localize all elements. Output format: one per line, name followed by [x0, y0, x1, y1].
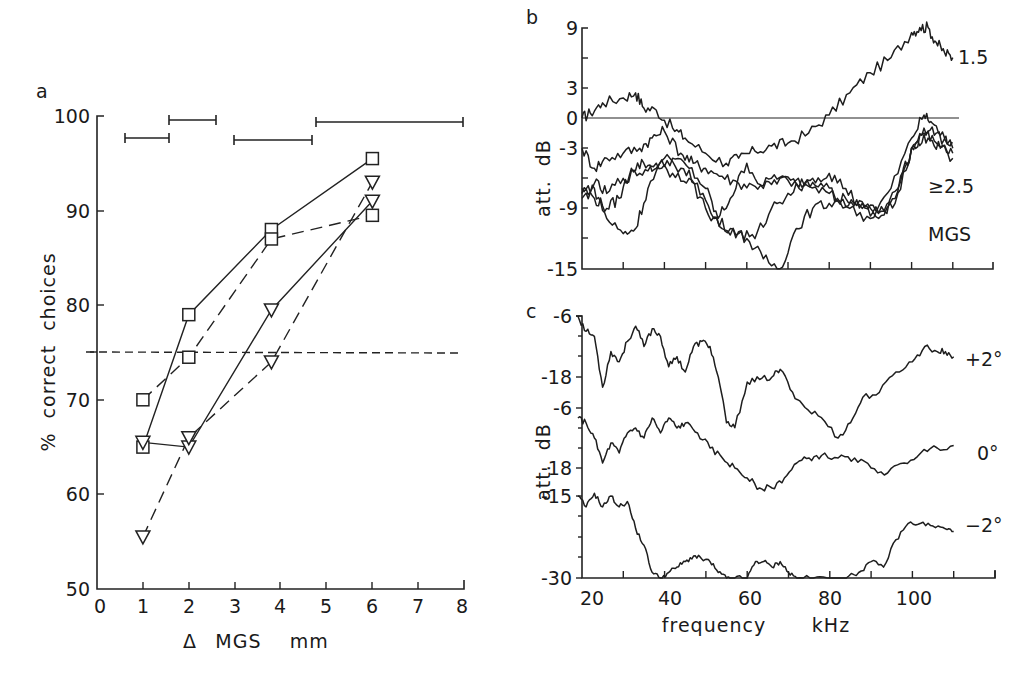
c-ytick-bot-m30: -30: [541, 567, 572, 589]
xtick-6: 6: [366, 595, 378, 617]
square-marker: [183, 309, 195, 321]
spectrum-trace-1: [582, 114, 953, 222]
range-bars: [125, 115, 463, 145]
square-marker: [183, 351, 195, 363]
b-ytick-m9: -9: [559, 197, 578, 219]
series-line-3: [143, 182, 373, 537]
b-ytick-m3: -3: [559, 137, 578, 159]
xtick-1: 1: [137, 595, 149, 617]
square-marker: [366, 209, 378, 221]
series-line-0: [143, 159, 373, 448]
xtick-8: 8: [456, 595, 468, 617]
threshold-75-line: [86, 352, 460, 353]
xtick-5: 5: [320, 595, 332, 617]
b-ytick-9: 9: [566, 17, 578, 39]
label-ge-2-5: ≥2.5: [928, 175, 974, 197]
c-xtick-40: 40: [658, 587, 682, 609]
b-ytick-m15: -15: [547, 258, 578, 280]
label-0deg: 0°: [977, 442, 999, 464]
xtick-3: 3: [229, 595, 241, 617]
c-xtick-80: 80: [818, 587, 842, 609]
panel-a-xticks: 0 1 2 3 4 5 6 7 8: [94, 582, 468, 617]
panel-a-series: [136, 153, 380, 544]
triangle-marker: [264, 304, 278, 317]
label-mgs: MGS: [928, 223, 971, 245]
panel-c-xlabel-unit: kHz: [812, 614, 850, 636]
b-ytick-3: 3: [566, 77, 578, 99]
c-xtick-100: 100: [896, 587, 932, 609]
panel-b-series: [582, 22, 953, 269]
panel-c: c -6 -18 -6 -18 -15 -30 20 40: [526, 300, 1003, 636]
triangle-marker: [365, 176, 379, 189]
panel-c-series: [578, 316, 954, 578]
panel-c-xlabel-frequency: frequency: [662, 614, 766, 636]
square-marker: [265, 233, 277, 245]
panel-c-xtick-labels: 20 40 60 80 100: [580, 587, 932, 609]
panel-a-letter: a: [36, 80, 48, 102]
response-curve-plus-2deg: [578, 316, 954, 438]
c-xtick-20: 20: [580, 587, 604, 609]
spectrum-trace-0: [582, 22, 953, 167]
c-ytick-top-m18: -18: [541, 366, 572, 388]
panel-b-ylabel: att. dB: [532, 139, 554, 217]
ytick-80: 80: [66, 294, 90, 316]
panel-c-ylabel: att. dB: [532, 423, 554, 501]
spectrum-trace-3: [582, 131, 953, 269]
triangle-marker: [136, 531, 150, 544]
b-ytick-0: 0: [566, 107, 578, 129]
ytick-50: 50: [66, 578, 90, 600]
ytick-100: 100: [54, 105, 90, 127]
panel-b-letter: b: [526, 6, 538, 28]
panel-c-letter: c: [526, 300, 536, 322]
label-minus-2deg: −2°: [965, 514, 1003, 536]
label-plus-2deg: +2°: [965, 348, 1003, 370]
c-xtick-60: 60: [738, 587, 762, 609]
xtick-2: 2: [183, 595, 195, 617]
response-curve-0deg: [578, 417, 954, 491]
xtick-7: 7: [412, 595, 424, 617]
ytick-70: 70: [66, 389, 90, 411]
xtick-4: 4: [274, 595, 286, 617]
c-ytick-top-m6: -6: [553, 305, 572, 327]
panel-a: a 50 60 70 80 90 100 0 1: [36, 80, 468, 652]
ytick-90: 90: [66, 200, 90, 222]
series-line-2: [143, 201, 373, 447]
panel-a-ylabel: % correct choices: [37, 252, 59, 451]
label-1-5: 1.5: [958, 46, 988, 68]
spectrum-trace-2: [582, 127, 953, 219]
panel-b: b 9 3 0 -3 -9 -15 att. dB 1.5 ≥2.5 MGS: [526, 6, 993, 280]
panel-a-xlabel: MGS mm: [215, 630, 328, 652]
ytick-60: 60: [66, 483, 90, 505]
square-marker: [366, 153, 378, 165]
response-curve-minus-2deg: [578, 493, 954, 578]
square-marker: [137, 394, 149, 406]
panel-a-xlabel-delta: Δ: [183, 630, 197, 652]
panel-b-xticks: [623, 262, 953, 269]
xtick-0: 0: [94, 595, 106, 617]
figure: a 50 60 70 80 90 100 0 1: [0, 0, 1028, 673]
c-ytick-mid-m6: -6: [553, 397, 572, 419]
